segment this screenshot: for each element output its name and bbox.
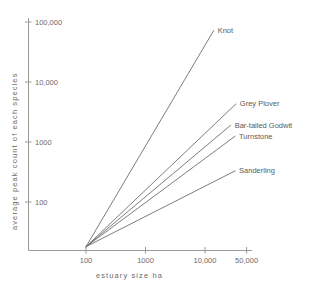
y-axis-tick-labels: 100100010,000100,000 [35,18,62,207]
series-label-grey-plover: Grey Plover [240,99,280,108]
x-tick-label: 10,000 [194,256,217,265]
x-axis-group: 100100010,00050,000 estuary size ha [29,247,259,280]
x-tick-label: 1000 [137,256,154,265]
series-labels-group: KnotGrey PloverBar-tailed GodwitTurnston… [218,26,293,175]
series-line-turnstone [86,136,235,246]
y-tick-label: 100,000 [35,18,62,27]
series-lines-group [86,31,236,247]
y-tick-label: 1000 [35,138,52,147]
y-tick-label: 10,000 [35,78,58,87]
x-axis-title: estuary size ha [96,271,163,280]
x-axis-tick-labels: 100100010,00050,000 [80,256,258,265]
series-line-grey-plover [86,104,236,247]
series-label-turnstone: Turnstone [239,132,273,141]
y-axis-group: 100100010,000100,000 average peak count … [10,18,62,251]
y-tick-label: 100 [35,198,48,207]
series-label-bar-tailed-godwit: Bar-tailed Godwit [235,121,293,130]
log-log-line-chart: 100100010,000100,000 average peak count … [0,0,319,288]
series-label-knot: Knot [218,26,234,35]
chart-container: 100100010,000100,000 average peak count … [0,0,319,288]
x-tick-label: 50,000 [235,256,258,265]
y-axis-title: average peak count of each species [10,73,19,230]
series-label-sanderling: Sanderling [239,166,275,175]
series-line-bar-tailed-godwit [86,125,231,246]
x-tick-label: 100 [80,256,93,265]
